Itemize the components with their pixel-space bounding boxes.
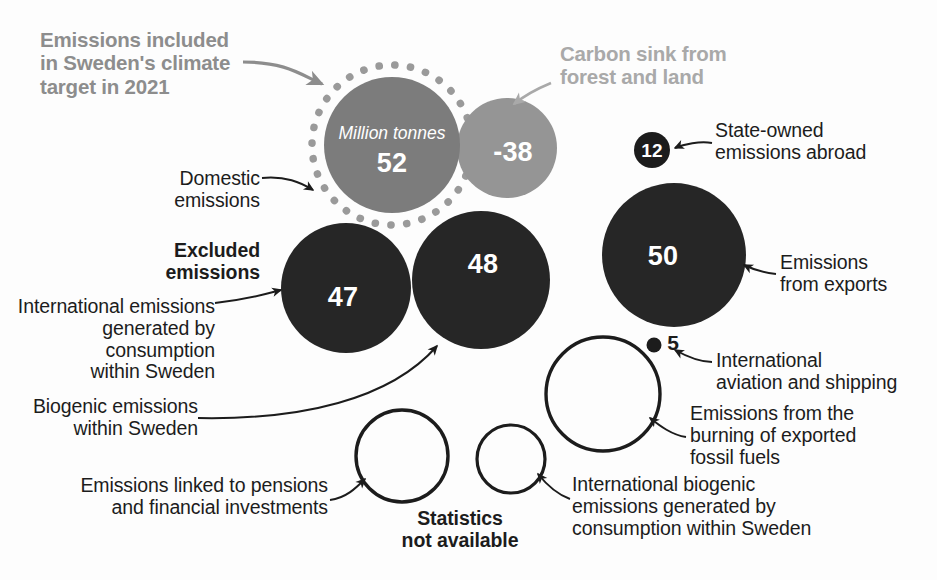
leader-domestic [262,178,313,190]
label-aviation-shipping: International aviation and shipping [716,350,937,394]
label-exported-fossil-burning: Emissions from the burning of exported f… [690,403,930,468]
bubble-domestic[interactable] [324,77,460,213]
value-exports: 50 [648,241,678,272]
label-intl-consumption: International emissions generated by con… [10,296,215,383]
leader-exports [744,265,776,274]
leader-intl-biogenic [538,474,570,499]
value-sink: -38 [493,137,533,168]
leader-intl-consumption [215,290,281,303]
label-intl-biogenic: International biogenic emissions generat… [572,474,842,539]
unit-note-million-tonnes: Million tonnes [339,123,446,144]
heading-climate-target: Emissions included in Sweden's climate t… [40,28,240,98]
label-exports: Emissions from exports [780,252,937,296]
leader-biogenic-sweden [198,346,437,418]
leader-state-owned-abroad [675,142,712,148]
bubble-exported-fossil-burning[interactable] [546,337,660,451]
heading-carbon-sink: Carbon sink from forest and land [560,42,790,89]
leader-sink-heading [514,83,551,104]
leader-aviation-shipping [675,350,712,362]
infographic-canvas: Emissions included in Sweden's climate t… [0,0,937,580]
bubble-intl-biogenic[interactable] [477,425,545,493]
value-intl-consumption: 47 [328,282,358,313]
leader-target-heading [243,62,322,84]
label-state-owned-abroad: State-owned emissions abroad [715,120,935,164]
value-domestic: 52 [377,148,407,179]
label-biogenic-sweden: Biogenic emissions within Sweden [10,396,198,440]
value-aviation-shipping: 5 [667,331,679,355]
label-domestic-emissions: Domestic emissions [60,168,260,212]
value-biogenic-sweden: 48 [468,249,498,280]
bubble-biogenic-sweden[interactable] [412,211,550,349]
label-excluded-emissions: Excluded emissions [60,240,260,284]
bubble-aviation-shipping[interactable] [647,338,662,353]
label-statistics-not-available: Statistics not available [385,508,535,552]
leader-exported-fossil [650,418,686,437]
label-pensions-investments: Emissions linked to pensions and financi… [50,475,328,519]
leader-pensions-investments [330,479,365,500]
value-state-owned-abroad: 12 [641,140,663,162]
bubble-pensions-investments[interactable] [356,410,448,502]
